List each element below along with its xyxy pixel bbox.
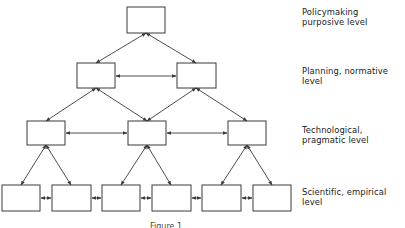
arrow-l1-l2-right	[146, 33, 196, 63]
level-label-line: level	[302, 198, 386, 208]
arrow-l2right-l3right	[196, 88, 247, 121]
arrow-l3mid-l4-4	[147, 145, 171, 185]
planning-box-left	[77, 63, 115, 88]
technological-box-middle	[128, 121, 166, 145]
arrow-l2right-l3mid	[147, 88, 196, 121]
arrow-l3mid-l4-3	[121, 145, 147, 185]
arrow-l2left-l3mid	[96, 88, 147, 121]
level-label-line: pragmatic level	[302, 136, 369, 146]
level-label-line: level	[302, 77, 388, 87]
policymaking-box	[127, 7, 165, 33]
arrow-l2left-l3left	[46, 88, 96, 121]
level-label-line: purposive level	[302, 18, 367, 28]
figure-caption: Figure 1	[150, 222, 182, 228]
arrow-l3left-l4-1	[21, 145, 46, 185]
planning-box-right	[177, 63, 216, 88]
scientific-box-3	[102, 185, 140, 211]
level-label-policymaking: Policymaking purposive level	[302, 8, 367, 27]
arrow-l3right-l4-5	[221, 145, 247, 185]
level-label-planning: Planning, normative level	[302, 67, 388, 86]
scientific-box-5	[202, 185, 241, 211]
arrow-l3left-l4-2	[46, 145, 71, 185]
technological-box-right	[228, 121, 266, 145]
scientific-box-1	[2, 185, 40, 211]
level-label-technological: Technological, pragmatic level	[302, 126, 369, 145]
technological-box-left	[27, 121, 65, 145]
scientific-box-4	[152, 185, 191, 211]
arrow-l1-l2-left	[96, 33, 146, 63]
scientific-box-2	[52, 185, 91, 211]
arrow-l3right-l4-6	[247, 145, 272, 185]
level-label-scientific: Scientific, empirical level	[302, 188, 386, 207]
scientific-box-6	[253, 185, 291, 211]
